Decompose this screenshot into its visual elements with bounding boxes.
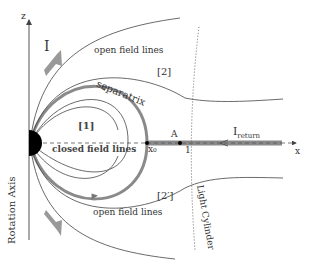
closed-field-lines-label: closed field lines — [52, 144, 136, 154]
open-field-line — [30, 143, 175, 259]
region-2-prime-label: [2′] — [157, 190, 173, 201]
x0-label: x₀ — [148, 144, 157, 154]
one-tick-label: 1 — [185, 145, 191, 155]
region-1-label: [1] — [78, 120, 94, 131]
current-label: I — [44, 38, 50, 54]
point-a-label: A — [171, 129, 178, 139]
pulsar-magnetosphere-diagram: z x I open field lines open field lines … — [0, 0, 313, 271]
neutron-star — [29, 130, 42, 156]
region-2-label: [2] — [157, 66, 171, 77]
rotation-axis-label: Rotation Axis — [6, 176, 17, 244]
open-field-lines-bottom-label: open field lines — [93, 207, 163, 217]
x-axis-label: x — [295, 146, 300, 156]
z-axis-label: z — [21, 11, 26, 21]
light-cylinder-line — [191, 27, 199, 250]
open-field-lines-top-label: open field lines — [94, 45, 164, 55]
current-arrow-down — [44, 210, 62, 236]
i-return-label: Ireturn — [233, 125, 260, 140]
